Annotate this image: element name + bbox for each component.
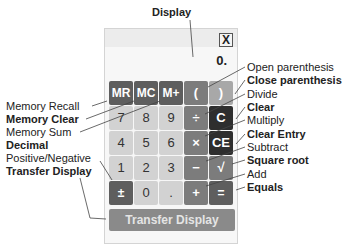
digit-0-button[interactable]: 0 (134, 181, 158, 205)
label-memory-sum: Memory Sum (6, 126, 71, 138)
digit-6-button[interactable]: 6 (159, 131, 183, 155)
clear-entry-button[interactable]: CE (209, 131, 233, 155)
label-clear: Clear (247, 101, 275, 113)
memory-sum-button[interactable]: M+ (159, 81, 183, 105)
label-open-paren: Open parenthesis (247, 61, 334, 73)
label-divide: Divide (247, 88, 278, 100)
label-memory-recall: Memory Recall (6, 100, 79, 112)
digit-8-button[interactable]: 8 (134, 106, 158, 130)
label-transfer-display: Transfer Display (6, 165, 92, 177)
digit-7-button[interactable]: 7 (109, 106, 133, 130)
equals-button[interactable]: = (209, 181, 233, 205)
calculator-panel: X 0. MR MC M+ ( ) 7 8 9 ÷ C 4 5 6 × CE 1… (104, 28, 238, 244)
display-callout-label: Display (152, 6, 191, 18)
label-square-root: Square root (247, 154, 309, 166)
subtract-button[interactable]: − (184, 156, 208, 180)
panel-title-bar (105, 29, 237, 47)
clear-button[interactable]: C (209, 106, 233, 130)
label-close-paren: Close parenthesis (247, 74, 342, 86)
decimal-button[interactable]: . (159, 181, 183, 205)
label-multiply: Multiply (247, 114, 284, 126)
square-root-button[interactable]: √ (209, 156, 233, 180)
label-subtract: Subtract (247, 141, 288, 153)
label-decimal: Decimal (6, 139, 48, 151)
memory-clear-button[interactable]: MC (134, 81, 158, 105)
digit-4-button[interactable]: 4 (109, 131, 133, 155)
digit-5-button[interactable]: 5 (134, 131, 158, 155)
digit-1-button[interactable]: 1 (109, 156, 133, 180)
close-button[interactable]: X (219, 33, 233, 47)
divide-button[interactable]: ÷ (184, 106, 208, 130)
label-clear-entry: Clear Entry (247, 128, 306, 140)
open-paren-button[interactable]: ( (184, 81, 208, 105)
label-equals: Equals (247, 181, 283, 193)
add-button[interactable]: + (184, 181, 208, 205)
label-memory-clear: Memory Clear (6, 113, 79, 125)
memory-recall-button[interactable]: MR (109, 81, 133, 105)
plus-minus-button[interactable]: ± (109, 181, 133, 205)
close-paren-button[interactable]: ) (209, 81, 233, 105)
multiply-button[interactable]: × (184, 131, 208, 155)
transfer-display-button[interactable]: Transfer Display (109, 209, 235, 231)
digit-3-button[interactable]: 3 (159, 156, 183, 180)
label-add: Add (247, 168, 267, 180)
digit-9-button[interactable]: 9 (159, 106, 183, 130)
label-positive-negative: Positive/Negative (6, 152, 91, 164)
display-value: 0. (216, 53, 227, 68)
digit-2-button[interactable]: 2 (134, 156, 158, 180)
